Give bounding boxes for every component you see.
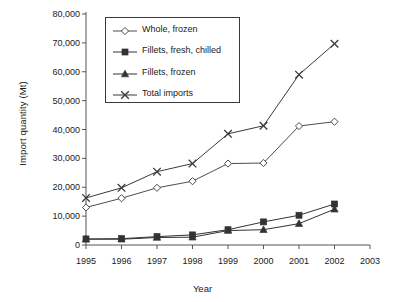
data-point-open-diamond bbox=[82, 204, 89, 211]
data-point-cross-x bbox=[331, 40, 339, 48]
data-point-cross-x bbox=[189, 160, 197, 168]
line-chart: Import quantity (Mt) 010,00020,00030,000… bbox=[0, 0, 405, 302]
legend-item: Whole, frozen bbox=[106, 18, 239, 40]
data-point-open-diamond bbox=[224, 160, 231, 167]
series-line bbox=[86, 122, 335, 208]
data-point-open-diamond bbox=[121, 27, 128, 34]
data-point-filled-square bbox=[261, 219, 267, 225]
legend-item-label: Fillets, fresh, chilled bbox=[138, 45, 221, 55]
legend-item: Fillets, fresh, chilled bbox=[106, 40, 239, 62]
data-point-open-diamond bbox=[153, 184, 160, 191]
legend-marker-filled-triangle-icon bbox=[112, 66, 138, 78]
legend-marker-open-diamond-icon bbox=[112, 23, 138, 35]
series-0 bbox=[82, 118, 338, 211]
legend-item: Fillets, frozen bbox=[106, 61, 239, 83]
legend-item-label: Total imports bbox=[138, 88, 193, 98]
data-point-cross-x bbox=[118, 184, 126, 192]
data-point-open-diamond bbox=[331, 118, 338, 125]
data-point-open-diamond bbox=[118, 195, 125, 202]
series-2 bbox=[82, 205, 338, 242]
legend-item-label: Whole, frozen bbox=[138, 24, 198, 34]
legend-item: Total imports bbox=[106, 83, 239, 105]
x-axis-title: Year bbox=[0, 283, 405, 294]
data-point-cross-x bbox=[295, 71, 303, 79]
legend-item-label: Fillets, frozen bbox=[138, 67, 196, 77]
data-point-cross-x bbox=[153, 168, 161, 176]
data-point-cross-x bbox=[260, 122, 268, 130]
chart-legend: Whole, frozen Fillets, fresh, chilled Fi… bbox=[105, 17, 240, 103]
data-point-open-diamond bbox=[189, 178, 196, 185]
legend-marker-cross-x-icon bbox=[112, 87, 138, 99]
legend-marker-filled-square-icon bbox=[112, 44, 138, 56]
data-point-cross-x bbox=[224, 130, 232, 138]
data-point-filled-square bbox=[296, 212, 302, 218]
data-point-filled-square bbox=[122, 49, 128, 55]
